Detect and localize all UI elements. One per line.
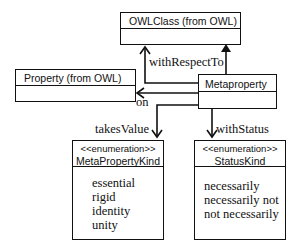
takes-value-line [157, 105, 198, 137]
class-metaproperty-name: Metaproperty [199, 75, 276, 92]
enum-statuskind-stereotype: <<enumeration>> [195, 143, 285, 155]
class-owlclass[interactable]: OWLClass (from OWL) [120, 12, 241, 45]
class-property[interactable]: Property (from OWL) [15, 69, 136, 102]
uml-diagram: OWLClass (from OWL) Property (from OWL) … [0, 0, 297, 249]
enum-literal: necessarily not [204, 193, 285, 207]
enum-literal: necessarily [204, 179, 285, 193]
enum-statuskind[interactable]: <<enumeration>> StatusKind necessarily n… [194, 140, 286, 240]
enum-literal: not necessarily [204, 207, 285, 221]
label-on: on [136, 95, 149, 110]
label-takes-value: takesValue [95, 122, 149, 137]
enum-metapropertykind-literals: essential rigid identity unity [73, 167, 163, 232]
enum-metapropertykind-name: MetaPropertyKind [73, 155, 163, 167]
enum-literal: unity [92, 218, 163, 232]
enum-metapropertykind-stereotype: <<enumeration>> [73, 143, 163, 155]
class-metaproperty[interactable]: Metaproperty [198, 74, 277, 109]
class-owlclass-name: OWLClass (from OWL) [121, 13, 240, 29]
class-property-name: Property (from OWL) [16, 70, 135, 86]
generalization-arrowhead [221, 44, 231, 52]
enum-literal: rigid [92, 190, 163, 204]
label-with-status: withStatus [216, 122, 269, 137]
enum-statuskind-name: StatusKind [195, 155, 285, 167]
enum-literal: essential [92, 176, 163, 190]
enum-statuskind-literals: necessarily necessarily not not necessar… [195, 167, 285, 221]
enum-literal: identity [92, 204, 163, 218]
enum-metapropertykind[interactable]: <<enumeration>> MetaPropertyKind essenti… [72, 140, 164, 240]
label-with-respect-to: withRespectTo [149, 55, 224, 70]
